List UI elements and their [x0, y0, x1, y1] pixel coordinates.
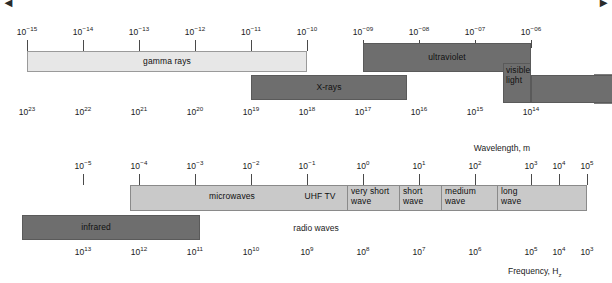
tick-exponent: 17 — [364, 105, 371, 112]
tick-exponent: 11 — [197, 245, 204, 252]
tick-mantissa: 10 — [468, 161, 478, 171]
tick-exponent: 23 — [28, 105, 35, 112]
bottom-wavelength-tick-3 — [251, 174, 252, 185]
band-label-medium-wave: medium wave — [445, 187, 476, 206]
tick-exponent: −10 — [306, 25, 317, 32]
tick-mantissa: 10 — [580, 247, 590, 257]
band-label-microwaves: microwaves — [209, 192, 255, 202]
long-wave-line-2: wave — [501, 196, 521, 206]
radio-divider-veryshort-short — [399, 185, 400, 211]
tick-mantissa: 10 — [468, 247, 478, 257]
top-frequency-label-0: 1023 — [19, 108, 36, 117]
bottom-wavelength-tick-8 — [531, 174, 532, 185]
tick-exponent: −11 — [251, 25, 261, 32]
radio-divider-short-medium — [441, 185, 442, 211]
band-label-gamma-rays: gamma rays — [143, 57, 191, 67]
bottom-wavelength-label-10: 105 — [580, 162, 593, 171]
top-frequency-label-8: 1015 — [467, 108, 484, 117]
band-label-short-wave: short wave — [403, 187, 423, 206]
axis-title-frequency: Frequency, Hz — [508, 267, 561, 276]
tick-exponent: 2 — [478, 159, 482, 166]
tick-exponent: 3 — [590, 245, 594, 252]
bottom-frequency-label-5: 108 — [356, 248, 369, 257]
tick-exponent: 20 — [196, 105, 203, 112]
tick-exponent: 5 — [534, 245, 538, 252]
top-wavelength-label-5: 10−10 — [297, 28, 317, 37]
tick-mantissa: 10 — [187, 247, 197, 257]
top-wavelength-label-7: 10−08 — [409, 28, 429, 37]
top-wavelength-label-6: 10−09 — [353, 28, 373, 37]
tick-exponent: 22 — [84, 105, 91, 112]
tick-exponent: 14 — [532, 105, 539, 112]
top-wavelength-tick-0 — [27, 40, 28, 51]
tick-exponent: −06 — [530, 25, 541, 32]
very-short-wave-line-1: very short — [351, 186, 389, 196]
band-label-visible-light: visible light — [506, 66, 530, 85]
tick-mantissa: 10 — [17, 27, 27, 37]
tick-exponent: −4 — [140, 159, 147, 166]
frequency-title-text: Frequency, H — [508, 266, 558, 276]
bottom-wavelength-tick-9 — [559, 174, 560, 185]
tick-mantissa: 10 — [356, 247, 366, 257]
bottom-wavelength-tick-0 — [83, 174, 84, 185]
frequency-title-subscript: z — [558, 271, 561, 278]
band-label-x-rays: X-rays — [316, 83, 341, 93]
top-wavelength-label-1: 10−14 — [73, 28, 93, 37]
bottom-wavelength-tick-5 — [363, 174, 364, 185]
short-wave-line-1: short — [403, 186, 422, 196]
tick-exponent: −14 — [82, 25, 93, 32]
tick-exponent: −07 — [474, 25, 485, 32]
tick-exponent: −15 — [26, 25, 37, 32]
tick-mantissa: 10 — [187, 107, 197, 117]
band-label-long-wave: long wave — [501, 187, 521, 206]
long-wave-line-1: long — [501, 186, 517, 196]
bottom-frequency-label-0: 1013 — [75, 248, 92, 257]
tick-exponent: 9 — [310, 245, 314, 252]
bottom-wavelength-label-9: 104 — [552, 162, 565, 171]
tick-exponent: 0 — [366, 159, 370, 166]
visible-light-line-2: light — [506, 75, 522, 85]
top-frequency-label-1: 1022 — [75, 108, 92, 117]
axis-title-wavelength: Wavelength, m — [474, 144, 530, 153]
top-wavelength-tick-1 — [83, 40, 84, 51]
tick-mantissa: 10 — [412, 247, 422, 257]
tick-mantissa: 10 — [409, 27, 419, 37]
tick-exponent: 5 — [590, 159, 594, 166]
bottom-wavelength-tick-10 — [587, 174, 588, 185]
tick-mantissa: 10 — [411, 107, 421, 117]
tick-exponent: −3 — [196, 159, 203, 166]
tick-exponent: −09 — [362, 25, 373, 32]
tick-mantissa: 10 — [243, 107, 253, 117]
medium-wave-line-1: medium — [445, 186, 476, 196]
tick-mantissa: 10 — [353, 27, 363, 37]
tick-exponent: −13 — [138, 25, 149, 32]
tick-mantissa: 10 — [75, 107, 85, 117]
bottom-wavelength-label-6: 101 — [412, 162, 425, 171]
lower-spectrum-row: Wavelength, m 10−510−410−310−210−1100101… — [0, 140, 612, 283]
bottom-frequency-label-9: 104 — [552, 248, 565, 257]
bottom-frequency-label-1: 1012 — [131, 248, 148, 257]
medium-wave-line-2: wave — [445, 196, 465, 206]
tick-mantissa: 10 — [355, 107, 365, 117]
band-label-infrared: infrared — [81, 223, 111, 233]
tick-exponent: 21 — [140, 105, 147, 112]
top-wavelength-tick-9 — [531, 40, 532, 48]
band-label-ultraviolet: ultraviolet — [428, 53, 465, 63]
top-wavelength-tick-4 — [251, 40, 252, 51]
tick-mantissa: 10 — [129, 27, 139, 37]
band-label-uhf-tv: UHF TV — [304, 192, 335, 202]
tick-mantissa: 10 — [524, 247, 534, 257]
top-wavelength-label-9: 10−06 — [521, 28, 541, 37]
bottom-frequency-label-8: 105 — [524, 248, 537, 257]
tick-mantissa: 10 — [356, 161, 366, 171]
top-frequency-label-4: 1019 — [243, 108, 260, 117]
tick-exponent: 4 — [562, 159, 566, 166]
top-wavelength-label-8: 10−07 — [465, 28, 485, 37]
very-short-wave-line-2: wave — [351, 196, 371, 206]
tick-mantissa: 10 — [412, 161, 422, 171]
tick-mantissa: 10 — [552, 247, 562, 257]
bottom-wavelength-label-3: 10−2 — [243, 162, 260, 171]
tick-mantissa: 10 — [243, 247, 253, 257]
top-wavelength-tick-2 — [139, 40, 140, 51]
tick-exponent: −1 — [308, 159, 315, 166]
